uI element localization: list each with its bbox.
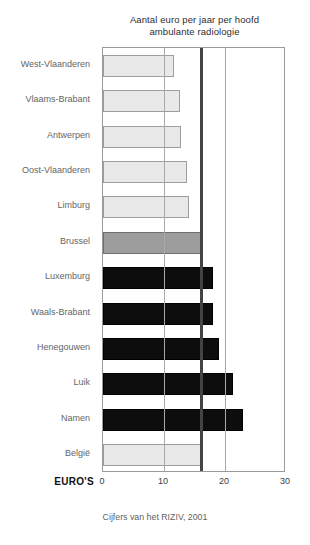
x-tick-label-0: 0 [99, 476, 104, 486]
category-label-henegouwen: Henegouwen [0, 342, 90, 353]
bar-vlaams-brabant[interactable] [103, 90, 180, 112]
bar-row [103, 154, 284, 189]
chart-title: Aantal euro per jaar per hoofd ambulante… [102, 14, 287, 37]
category-label-antwerpen: Antwerpen [0, 130, 90, 141]
bar-luxemburg[interactable] [103, 267, 213, 289]
bar-row [103, 367, 284, 402]
bar-belgi-[interactable] [103, 444, 201, 466]
plot-area [102, 47, 285, 472]
category-label-namen: Namen [0, 413, 90, 424]
bar-antwerpen[interactable] [103, 126, 181, 148]
category-label-west-vlaanderen: West-Vlaanderen [0, 59, 90, 70]
radiology-spending-bar-chart: Aantal euro per jaar per hoofd ambulante… [0, 0, 310, 545]
category-label-vlaams-brabant: Vlaams-Brabant [0, 94, 90, 105]
x-tick-label-20: 20 [219, 476, 229, 486]
bar-row [103, 225, 284, 260]
bar-row [103, 48, 284, 83]
bar-brussel[interactable] [103, 232, 201, 254]
bar-row [103, 261, 284, 296]
bar-row [103, 402, 284, 437]
category-label-waals-brabant: Waals-Brabant [0, 307, 90, 318]
bar-row [103, 331, 284, 366]
x-tick-label-30: 30 [280, 476, 290, 486]
category-label-limburg: Limburg [0, 200, 90, 211]
category-label-luxemburg: Luxemburg [0, 271, 90, 282]
bar-row [103, 438, 284, 473]
bar-waals-brabant[interactable] [103, 303, 213, 325]
reference-line [200, 48, 203, 471]
bar-luik[interactable] [103, 373, 233, 395]
x-axis-title: EURO'S [0, 476, 94, 487]
bar-series [103, 48, 284, 471]
category-axis-labels: West-VlaanderenVlaams-BrabantAntwerpenOo… [0, 47, 96, 472]
x-tick-label-10: 10 [158, 476, 168, 486]
bar-row [103, 190, 284, 225]
chart-source-note: Cijfers van het RIZIV, 2001 [0, 512, 310, 522]
gridline-10 [164, 48, 165, 471]
category-label-belgi-: België [0, 448, 90, 459]
gridline-20 [225, 48, 226, 471]
bar-oost-vlaanderen[interactable] [103, 161, 187, 183]
category-label-brussel: Brussel [0, 236, 90, 247]
x-axis-tick-labels: 0102030 [102, 476, 285, 490]
category-label-oost-vlaanderen: Oost-Vlaanderen [0, 165, 90, 176]
chart-title-line-1: Aantal euro per jaar per hoofd [102, 14, 287, 26]
bar-namen[interactable] [103, 409, 243, 431]
bar-row [103, 83, 284, 118]
bar-row [103, 296, 284, 331]
bar-limburg[interactable] [103, 196, 189, 218]
category-label-luik: Luik [0, 377, 90, 388]
chart-title-line-2: ambulante radiologie [102, 26, 287, 38]
bar-row [103, 119, 284, 154]
